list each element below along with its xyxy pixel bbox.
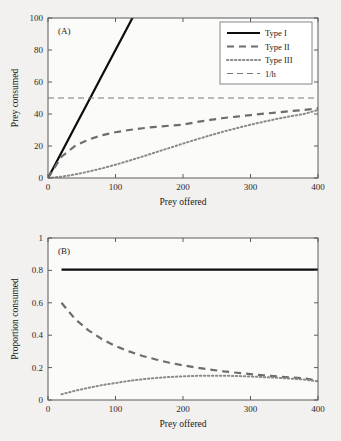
x-tick-label: 200 <box>176 404 190 414</box>
y-tick-label: 0 <box>39 173 44 183</box>
y-axis-title: Prey consumed <box>10 69 20 128</box>
y-tick-label: 1 <box>39 233 44 243</box>
panel-b: 010020030040000.20.40.60.81Prey offeredP… <box>10 233 325 429</box>
legend-label-type-ii: Type II <box>265 42 290 52</box>
x-tick-label: 300 <box>244 182 258 192</box>
x-axis-title: Prey offered <box>159 419 206 429</box>
x-tick-label: 400 <box>311 404 325 414</box>
legend-label-type-i: Type I <box>265 28 287 38</box>
x-axis-title: Prey offered <box>159 197 206 207</box>
y-tick-label: 60 <box>34 77 44 87</box>
y-tick-label: 0.2 <box>32 363 43 373</box>
y-tick-label: 0 <box>39 395 44 405</box>
legend: Type IType IIType III1/h <box>220 22 312 84</box>
x-tick-label: 100 <box>109 404 123 414</box>
x-tick-label: 400 <box>311 182 325 192</box>
y-tick-label: 20 <box>34 141 44 151</box>
x-tick-label: 0 <box>46 182 51 192</box>
y-tick-label: 0.6 <box>32 298 44 308</box>
legend-label-type-iii: Type III <box>265 55 293 65</box>
panel-label: (A) <box>58 26 71 36</box>
x-tick-label: 200 <box>176 182 190 192</box>
y-axis-title: Proportion consumed <box>10 278 20 360</box>
figure-svg: 0100200300400020406080100Prey offeredPre… <box>0 0 341 441</box>
legend-label-1-h: 1/h <box>265 69 277 79</box>
plot-background <box>48 238 318 400</box>
x-tick-label: 100 <box>109 182 123 192</box>
y-tick-label: 0.8 <box>32 265 44 275</box>
panel-a: 0100200300400020406080100Prey offeredPre… <box>10 0 325 207</box>
y-tick-label: 80 <box>34 45 44 55</box>
y-tick-label: 40 <box>34 109 44 119</box>
y-tick-label: 100 <box>30 13 44 23</box>
figure-container: 0100200300400020406080100Prey offeredPre… <box>0 0 341 441</box>
x-tick-label: 0 <box>46 404 51 414</box>
x-tick-label: 300 <box>244 404 258 414</box>
y-tick-label: 0.4 <box>32 330 44 340</box>
panel-label: (B) <box>58 246 70 256</box>
